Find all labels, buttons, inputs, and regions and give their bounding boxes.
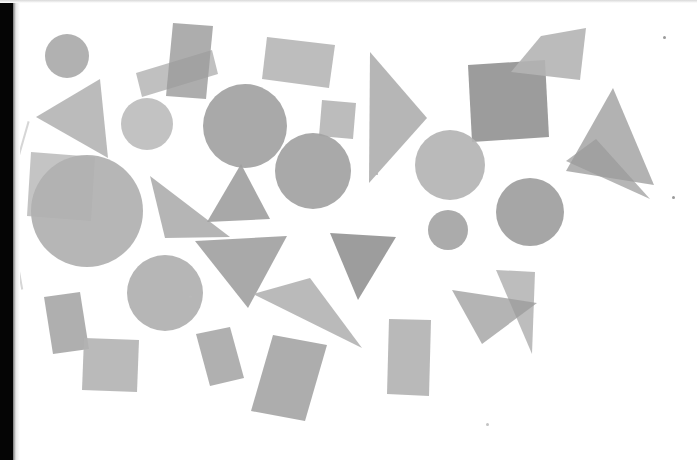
circle-center <box>275 133 351 209</box>
speck-top-right <box>663 36 666 39</box>
circle-right-light <box>415 130 485 200</box>
speck-bottom <box>486 423 489 426</box>
circle-lower-left <box>127 255 203 331</box>
speck-mid-right <box>376 173 378 175</box>
square-bottom-left <box>82 338 139 392</box>
rectangle-top-center <box>262 37 335 88</box>
shape-canvas <box>0 0 697 460</box>
circle-top-left-small <box>45 34 89 78</box>
circle-left-large <box>31 155 143 267</box>
rectangle-top-vertical <box>166 23 213 99</box>
rectangle-bottom-right <box>387 319 431 396</box>
circle-right-dark <box>496 178 564 246</box>
circle-right-small <box>428 210 468 250</box>
speck-center <box>189 295 192 298</box>
circle-upper-left-mid <box>121 98 173 150</box>
circle-center-upper <box>203 84 287 168</box>
square-center-small <box>319 100 356 139</box>
shapes-layer <box>0 0 697 460</box>
speck-right-mid <box>672 196 675 199</box>
scan-edge-black-strip <box>0 0 13 460</box>
scan-edge-top-strip <box>0 0 697 3</box>
